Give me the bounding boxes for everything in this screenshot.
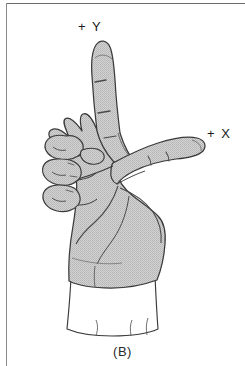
figure-caption: (B) bbox=[0, 344, 245, 359]
axis-label-y: + Y bbox=[78, 20, 102, 33]
axis-label-x: + X bbox=[207, 127, 231, 140]
hand-illustration bbox=[0, 0, 245, 366]
figure-frame: + Y + X (B) bbox=[0, 0, 245, 366]
